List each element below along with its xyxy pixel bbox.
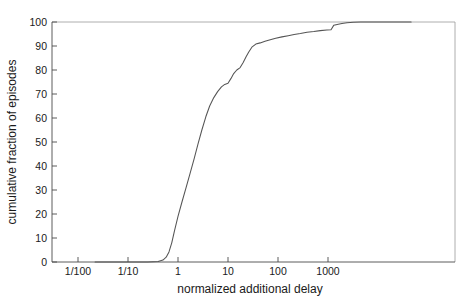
cdf-curve bbox=[95, 22, 411, 262]
x-axis-tick-labels: 1/100 1/10 1 10 100 1000 bbox=[65, 265, 340, 277]
x-axis-ticks bbox=[78, 257, 328, 262]
x-tick-label: 1/100 bbox=[65, 265, 91, 277]
y-tick-label: 30 bbox=[35, 184, 47, 196]
y-tick-label: 40 bbox=[35, 160, 47, 172]
chart-figure: 0 10 20 30 40 50 60 70 80 90 100 1/100 1… bbox=[0, 0, 474, 307]
x-tick-label: 1 bbox=[175, 265, 181, 277]
y-axis-title: cumulative fraction of episodes bbox=[5, 60, 19, 225]
y-tick-label: 100 bbox=[29, 16, 47, 28]
y-tick-label: 60 bbox=[35, 112, 47, 124]
y-tick-label: 10 bbox=[35, 232, 47, 244]
x-tick-label: 1/10 bbox=[118, 265, 139, 277]
y-tick-label: 0 bbox=[41, 256, 47, 268]
y-tick-label: 50 bbox=[35, 136, 47, 148]
x-tick-label: 10 bbox=[222, 265, 234, 277]
y-axis-tick-labels: 0 10 20 30 40 50 60 70 80 90 100 bbox=[29, 16, 47, 268]
x-axis-title: normalized additional delay bbox=[177, 282, 322, 296]
y-tick-label: 20 bbox=[35, 208, 47, 220]
y-axis-ticks bbox=[52, 22, 57, 262]
y-tick-label: 70 bbox=[35, 88, 47, 100]
x-tick-label: 100 bbox=[269, 265, 287, 277]
y-tick-label: 80 bbox=[35, 64, 47, 76]
plot-frame bbox=[52, 22, 455, 262]
y-tick-label: 90 bbox=[35, 40, 47, 52]
cdf-plot-svg: 0 10 20 30 40 50 60 70 80 90 100 1/100 1… bbox=[0, 0, 474, 307]
x-tick-label: 1000 bbox=[316, 265, 340, 277]
